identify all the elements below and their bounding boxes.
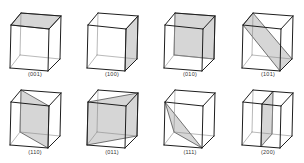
- cube-edge: [243, 90, 253, 102]
- miller-planes-diagram: [0, 0, 304, 163]
- cube-edge: [48, 59, 60, 71]
- unit-cell-110: [10, 90, 61, 148]
- cube-edge: [10, 25, 11, 68]
- cube-edge: [164, 55, 174, 68]
- cube-edge: [164, 132, 174, 145]
- lattice-plane: [243, 13, 292, 71]
- cube-edge: [87, 55, 97, 68]
- cube-edge: [214, 93, 215, 136]
- lattice-plane: [174, 13, 215, 59]
- lattice-plane: [165, 102, 202, 148]
- unit-cell-100: [87, 13, 138, 71]
- cube-edge: [10, 55, 20, 68]
- cube-edge: [242, 102, 243, 145]
- unit-cell-001: [10, 13, 61, 71]
- plane-label-011: (011): [105, 149, 118, 155]
- cube-edge: [164, 102, 165, 145]
- cube-edge: [165, 90, 175, 102]
- unit-cell-200: [242, 90, 293, 148]
- cube-edge: [10, 132, 20, 145]
- cube-edge: [164, 145, 202, 148]
- cube-edge: [60, 93, 61, 136]
- cube-edge: [202, 106, 203, 148]
- cube-edge: [48, 136, 60, 148]
- cube-edge: [20, 55, 60, 59]
- cube-edge: [292, 16, 293, 59]
- lattice-plane: [261, 92, 273, 147]
- cube-edge: [60, 16, 61, 59]
- cube-edge: [242, 55, 252, 68]
- cube-edge: [21, 90, 61, 93]
- cube-edge: [202, 136, 214, 148]
- cube-edge: [164, 25, 165, 68]
- plane-label-100: (100): [105, 71, 119, 77]
- cube-edge: [242, 132, 252, 145]
- cube-edge: [242, 25, 243, 68]
- cube-edge: [87, 145, 125, 148]
- unit-cell-010: [164, 13, 215, 71]
- plane-label-101: (101): [261, 71, 275, 77]
- plane-label-111: (111): [183, 149, 196, 155]
- lattice-plane: [20, 90, 49, 148]
- cube-edge: [10, 102, 11, 145]
- cube-edge: [202, 59, 214, 71]
- cube-edge: [281, 16, 293, 29]
- cube-edge: [203, 93, 215, 106]
- cube-edge: [165, 13, 175, 25]
- cube-edge: [11, 90, 21, 102]
- cube-edge: [97, 13, 98, 55]
- cube-edge: [98, 13, 138, 16]
- cube-edge: [175, 90, 215, 93]
- cube-edge: [48, 29, 49, 71]
- cube-edge: [292, 93, 293, 136]
- cube-edge: [280, 106, 281, 148]
- cube-edge: [98, 90, 138, 93]
- cube-edge: [10, 145, 48, 148]
- cube-edge: [280, 136, 292, 148]
- unit-cell-111: [164, 90, 215, 148]
- cube-edge: [253, 13, 293, 16]
- cube-edge: [165, 102, 203, 106]
- cube-edge: [88, 25, 126, 29]
- cube-edge: [49, 93, 61, 106]
- lattice-plane: [125, 16, 138, 71]
- unit-cell-011: [87, 90, 138, 148]
- plane-label-001: (001): [28, 71, 42, 77]
- plane-label-010: (010): [183, 71, 197, 77]
- cube-edge: [252, 90, 253, 132]
- unit-cell-101: [242, 13, 293, 71]
- plane-label-110: (110): [28, 149, 41, 155]
- cube-edge: [281, 93, 293, 106]
- plane-label-200: (200): [261, 149, 275, 155]
- cube-edge: [87, 25, 88, 68]
- cube-edge: [88, 13, 98, 25]
